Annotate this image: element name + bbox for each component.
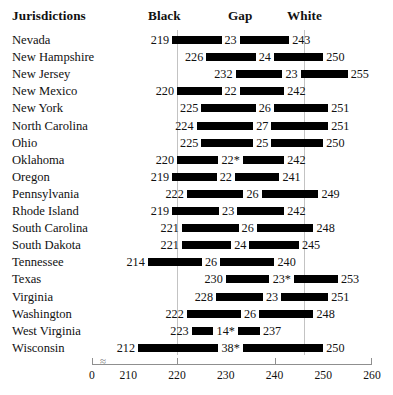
value-white: 242 — [287, 151, 327, 169]
bar-segment-left — [201, 139, 253, 147]
bar-segment-left — [177, 87, 222, 95]
chart-row: West Virginia22314*237 — [0, 322, 393, 340]
axis-tick-220 — [177, 358, 178, 365]
bar-segment-left — [187, 190, 244, 198]
value-white: 240 — [278, 253, 318, 271]
value-black: 225 — [161, 99, 198, 117]
bar-segment-right — [274, 104, 328, 112]
value-gap: 22* — [218, 151, 243, 169]
bar-segment-left — [226, 275, 270, 283]
bar-segment-left — [182, 241, 231, 249]
value-white: 253 — [341, 270, 381, 288]
bar-segment-left — [192, 327, 214, 335]
bar-segment-right — [240, 87, 285, 95]
value-white: 255 — [351, 65, 391, 83]
value-black: 224 — [157, 117, 194, 135]
axis-break-icon: ≈ — [100, 356, 106, 366]
bar-segment-right — [220, 258, 274, 266]
x-axis: ≈ 0 210220230240250260 — [0, 355, 393, 395]
axis-tick-label-220: 220 — [161, 369, 193, 382]
header-jurisdictions: Jurisdictions — [12, 8, 86, 24]
bar-segment-right — [243, 344, 323, 352]
axis-tick-label-240: 240 — [259, 369, 291, 382]
value-gap: 23 — [282, 65, 300, 83]
value-white: 242 — [287, 202, 327, 220]
chart-root: Jurisdictions Black Gap White Nevada2192… — [0, 0, 393, 395]
axis-tick-240 — [275, 358, 276, 365]
axis-line — [92, 364, 372, 365]
row-label-jurisdiction: Washington — [12, 305, 72, 323]
bar-segment-right — [257, 224, 314, 232]
header-gap: Gap — [228, 8, 253, 24]
value-gap: 26 — [202, 253, 220, 271]
value-white: 245 — [302, 236, 342, 254]
value-gap: 26 — [256, 99, 274, 117]
chart-row: Virginia22823251 — [0, 288, 393, 306]
value-black: 221 — [142, 219, 179, 237]
value-white: 248 — [317, 219, 357, 237]
chart-row: New York22526251 — [0, 99, 393, 117]
chart-row: Pennsylvania22226249 — [0, 185, 393, 203]
row-label-jurisdiction: North Carolina — [12, 117, 88, 135]
axis-tick-label-origin: 0 — [82, 369, 102, 382]
value-white: 249 — [321, 185, 361, 203]
value-black: 230 — [186, 270, 223, 288]
chart-row: Tennessee21426240 — [0, 253, 393, 271]
chart-row: Washington22226248 — [0, 305, 393, 323]
bar-segment-left — [201, 104, 255, 112]
row-label-jurisdiction: New York — [12, 99, 63, 117]
chart-row: Oklahoma22022*242 — [0, 151, 393, 169]
value-black: 220 — [137, 82, 174, 100]
value-black: 221 — [142, 236, 179, 254]
row-label-jurisdiction: Oregon — [12, 168, 50, 186]
value-white: 248 — [317, 305, 357, 323]
bar-segment-left — [172, 207, 219, 215]
bar-segment-left — [172, 173, 217, 181]
chart-row: Oregon21922241 — [0, 168, 393, 186]
value-gap: 26 — [243, 185, 261, 203]
bar-segment-left — [236, 70, 283, 78]
value-black: 223 — [152, 322, 189, 340]
bar-segment-left — [172, 36, 221, 44]
value-gap: 23 — [219, 202, 237, 220]
row-label-jurisdiction: Pennsylvania — [12, 185, 79, 203]
bar-segment-right — [243, 156, 284, 164]
value-white: 241 — [282, 168, 322, 186]
axis-tick-label-250: 250 — [307, 369, 339, 382]
row-label-jurisdiction: Virginia — [12, 288, 53, 306]
value-white: 251 — [331, 117, 371, 135]
chart-row: Rhode Island21923242 — [0, 202, 393, 220]
bar-segment-right — [240, 36, 289, 44]
value-gap: 23 — [263, 288, 281, 306]
bar-segment-left — [182, 224, 239, 232]
bar-segment-right — [274, 53, 323, 61]
row-label-jurisdiction: New Jersey — [12, 65, 70, 83]
value-black: 220 — [137, 151, 174, 169]
row-label-jurisdiction: New Mexico — [12, 82, 77, 100]
chart-row: Texas23023*253 — [0, 270, 393, 288]
axis-tick-label-210: 210 — [112, 369, 144, 382]
value-gap: 25 — [253, 134, 271, 152]
bar-segment-right — [235, 173, 280, 181]
chart-row: Ohio22525250 — [0, 134, 393, 152]
bar-segment-right — [271, 122, 328, 130]
value-white: 251 — [331, 288, 371, 306]
value-white: 250 — [326, 48, 366, 66]
row-label-jurisdiction: South Dakota — [12, 236, 81, 254]
row-label-jurisdiction: Ohio — [12, 134, 37, 152]
bar-segment-right — [262, 190, 319, 198]
row-label-jurisdiction: Tennessee — [12, 253, 64, 271]
value-gap: 24 — [256, 48, 274, 66]
row-label-jurisdiction: Texas — [12, 270, 41, 288]
bar-segment-right — [281, 293, 328, 301]
axis-tick-label-230: 230 — [210, 369, 242, 382]
value-black: 226 — [166, 48, 203, 66]
axis-left-cap — [92, 358, 93, 365]
chart-row: South Carolina22126248 — [0, 219, 393, 237]
row-label-jurisdiction: Rhode Island — [12, 202, 79, 220]
row-label-jurisdiction: Oklahoma — [12, 151, 64, 169]
chart-row: Nevada21923243 — [0, 31, 393, 49]
value-gap: 26 — [239, 219, 257, 237]
value-gap: 24 — [231, 236, 249, 254]
plot-area: Nevada21923243New Hampshire22624250New J… — [0, 30, 393, 355]
